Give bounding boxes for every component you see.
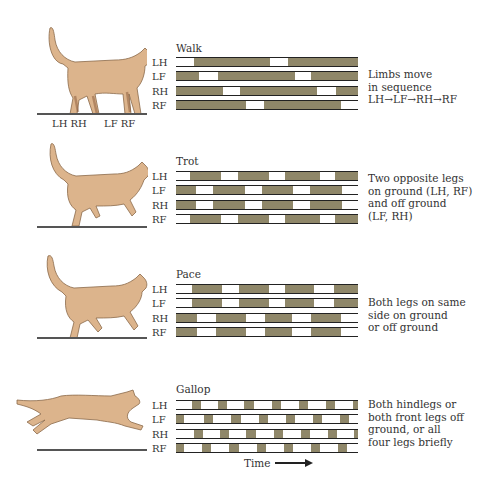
on-ground-segment (216, 328, 246, 336)
arrow-right-icon (275, 462, 311, 464)
on-ground-segment (311, 72, 358, 80)
on-ground-segment (218, 401, 227, 409)
on-ground-segment (244, 401, 254, 409)
timing-bar-rf (176, 214, 358, 224)
row-label-lh: LH (152, 58, 176, 68)
row-label-lh: LH (152, 285, 176, 295)
on-ground-segment (311, 328, 341, 336)
ground-line (37, 449, 147, 451)
ground-line (37, 226, 147, 228)
on-ground-segment (310, 201, 342, 209)
on-ground-segment (192, 285, 222, 293)
on-ground-segment (313, 415, 322, 423)
on-ground-segment (194, 430, 203, 438)
on-ground-segment (238, 215, 269, 223)
ground-line (37, 113, 147, 115)
on-ground-segment (338, 444, 347, 452)
on-ground-segment (246, 430, 256, 438)
timing-bar-lh (176, 284, 358, 294)
on-ground-segment (204, 415, 213, 423)
row-label-rf: RF (152, 328, 176, 338)
on-ground-segment (265, 328, 292, 336)
on-ground-segment (176, 201, 196, 209)
timing-bar-rh (176, 429, 358, 439)
on-ground-segment (354, 430, 358, 438)
row-label-rh: RH (152, 201, 176, 211)
timing-bar-lf (176, 414, 358, 424)
row-label-lf: LF (152, 186, 176, 196)
row-label-rh: RH (152, 314, 176, 324)
on-ground-segment (311, 444, 320, 452)
on-ground-segment (285, 215, 320, 223)
on-ground-segment (239, 285, 269, 293)
on-ground-segment (265, 314, 292, 322)
hind-leg-labels: LH RH (52, 118, 87, 129)
timing-bar-rh (176, 86, 358, 96)
on-ground-segment (192, 299, 222, 307)
row-label-rf: RF (152, 101, 176, 111)
on-ground-segment (274, 430, 283, 438)
on-ground-segment (176, 186, 196, 194)
gait-description: Limbs move in sequence LH→LF→RH→RF (368, 68, 457, 106)
gait-description: Both legs on same side on ground or off … (368, 296, 466, 334)
on-ground-segment (192, 401, 201, 409)
timing-bar-rf (176, 100, 358, 110)
on-ground-segment (264, 101, 341, 109)
on-ground-segment (176, 328, 197, 336)
on-ground-segment (229, 444, 239, 452)
on-ground-segment (176, 72, 199, 80)
timing-bar-rh (176, 200, 358, 210)
gait-description: Both hindlegs or both front legs off gro… (368, 398, 464, 448)
time-axis: Time (244, 457, 311, 469)
on-ground-segment (311, 314, 341, 322)
on-ground-segment (231, 415, 241, 423)
galloping-cat-illustration (15, 388, 145, 438)
on-ground-segment (328, 430, 337, 438)
on-ground-segment (239, 299, 269, 307)
timing-bar-rf (176, 443, 358, 453)
on-ground-segment (218, 72, 295, 80)
on-ground-segment (326, 401, 335, 409)
on-ground-segment (194, 58, 270, 66)
timing-bar-lf (176, 298, 358, 308)
timing-bar-rh (176, 313, 358, 323)
on-ground-segment (334, 299, 358, 307)
on-ground-segment (262, 186, 293, 194)
timing-bar-lh (176, 171, 358, 181)
timing-bar-lf (176, 185, 358, 195)
row-label-rh: RH (152, 430, 176, 440)
walking-cat-illustration (35, 22, 147, 117)
on-ground-segment (285, 299, 314, 307)
row-label-lf: LF (152, 415, 176, 425)
on-ground-segment (176, 444, 184, 452)
front-leg-labels: LF RF (104, 118, 135, 129)
row-label-lf: LF (152, 72, 176, 82)
gait-title: Pace (176, 268, 201, 280)
on-ground-segment (310, 186, 342, 194)
timing-bar-lh (176, 57, 358, 67)
on-ground-segment (238, 172, 269, 180)
on-ground-segment (288, 58, 358, 66)
on-ground-segment (240, 87, 317, 95)
on-ground-segment (301, 430, 310, 438)
on-ground-segment (353, 401, 358, 409)
on-ground-segment (213, 201, 245, 209)
row-label-lh: LH (152, 401, 176, 411)
on-ground-segment (286, 415, 295, 423)
on-ground-segment (334, 285, 358, 293)
on-ground-segment (285, 172, 320, 180)
on-ground-segment (285, 285, 314, 293)
on-ground-segment (213, 186, 245, 194)
trotting-cat-illustration (38, 140, 148, 230)
row-label-rf: RF (152, 444, 176, 454)
on-ground-segment (259, 415, 268, 423)
gait-title: Trot (176, 155, 199, 167)
on-ground-segment (335, 172, 358, 180)
on-ground-segment (220, 430, 229, 438)
on-ground-segment (176, 101, 246, 109)
on-ground-segment (284, 444, 293, 452)
ground-line (37, 337, 147, 339)
on-ground-segment (190, 172, 221, 180)
timing-bar-lf (176, 71, 358, 81)
row-label-lf: LF (152, 299, 176, 309)
